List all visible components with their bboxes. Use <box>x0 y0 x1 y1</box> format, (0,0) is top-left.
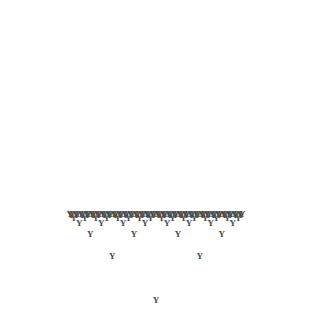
letter-y-glyph: Y <box>87 229 94 239</box>
letter-y-glyph: Y <box>153 295 160 305</box>
letter-y-glyph: Y <box>219 229 226 239</box>
letter-y-glyph: Y <box>175 229 182 239</box>
fractal-svg: YYYYYYYYYYYYYYYYYYYYYYYYYYYYYYYYYYYYYYYY… <box>0 0 311 326</box>
letter-y-glyph: Y <box>197 251 204 261</box>
background <box>0 0 311 326</box>
letter-y-glyph: Y <box>109 251 116 261</box>
letter-y-glyph: Y <box>131 229 138 239</box>
fractal-canvas: YYYYYYYYYYYYYYYYYYYYYYYYYYYYYYYYYYYYYYYY… <box>0 0 311 326</box>
letter-y-glyph: Y <box>239 209 246 219</box>
